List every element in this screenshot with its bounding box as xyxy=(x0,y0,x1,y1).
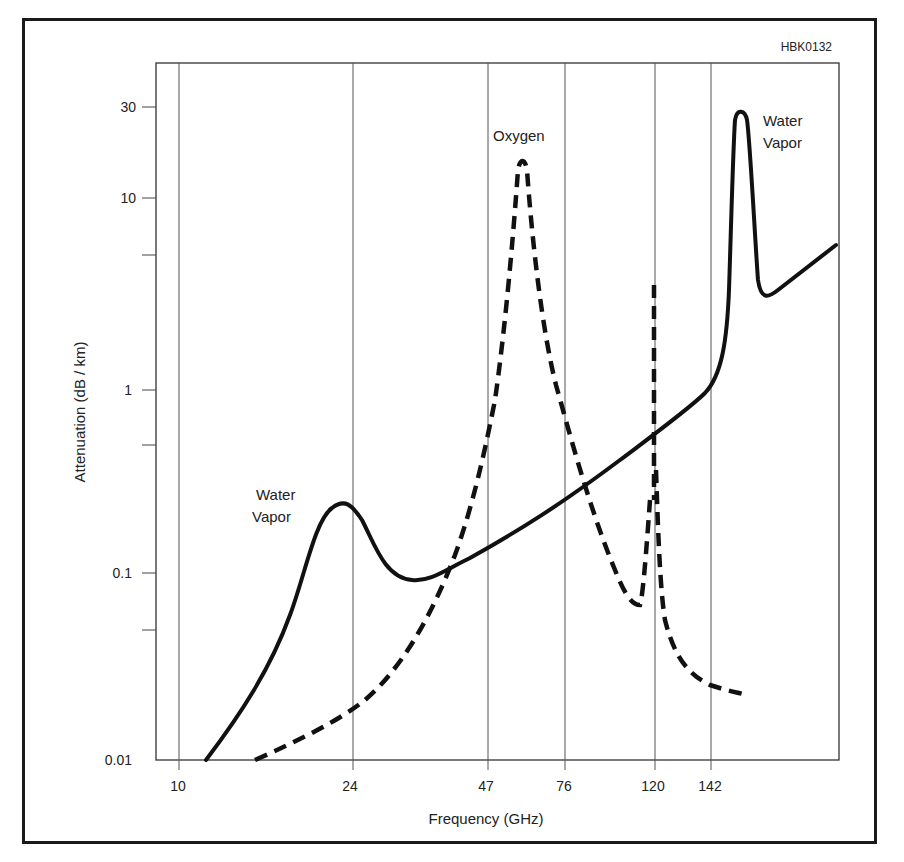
annotation-oxygen: Oxygen xyxy=(493,127,545,144)
series-water-vapor xyxy=(206,112,836,760)
x-tick-labels: 10 24 47 76 120 142 xyxy=(170,778,722,794)
x-tick-label: 120 xyxy=(641,778,665,794)
chart: HBK0132 30 10 1 0.1 0.01 10 24 47 76 120… xyxy=(0,0,904,862)
figure-id: HBK0132 xyxy=(781,40,833,54)
y-tick-label: 0.1 xyxy=(113,565,133,581)
x-tick-label: 24 xyxy=(342,778,358,794)
y-tick-labels: 30 10 1 0.1 0.01 xyxy=(105,99,136,768)
x-tick-label: 76 xyxy=(556,778,572,794)
annotation-water-vapor-183-line2: Vapor xyxy=(763,134,802,151)
y-ticks xyxy=(142,107,156,630)
y-tick-label: 1 xyxy=(124,382,132,398)
x-tick-label: 142 xyxy=(698,778,722,794)
annotation-water-vapor-22-line2: Vapor xyxy=(252,508,291,525)
x-tick-label: 47 xyxy=(478,778,494,794)
series-oxygen-tail xyxy=(656,470,743,694)
y-axis-title: Attenuation (dB / km) xyxy=(71,342,88,483)
annotation-water-vapor-183-line1: Water xyxy=(763,112,802,129)
y-tick-label: 30 xyxy=(120,99,136,115)
x-tick-label: 10 xyxy=(170,778,186,794)
annotation-water-vapor-22-line1: Water xyxy=(256,486,295,503)
x-gridlines xyxy=(179,63,711,770)
x-axis-title: Frequency (GHz) xyxy=(428,810,543,827)
y-tick-label: 10 xyxy=(120,190,136,206)
plot-area xyxy=(156,63,839,760)
series-oxygen xyxy=(255,161,650,760)
y-tick-label: 0.01 xyxy=(105,752,132,768)
